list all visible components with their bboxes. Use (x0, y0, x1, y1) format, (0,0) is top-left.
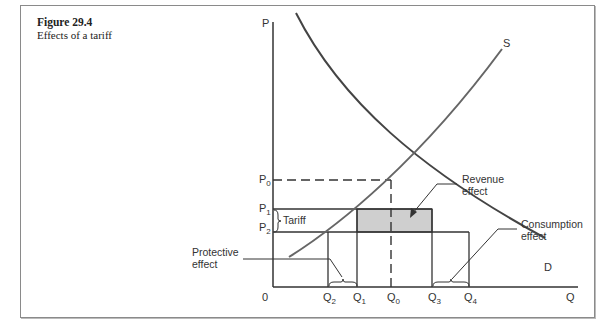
p0-label: P0 (259, 173, 271, 188)
tariff-brace (274, 210, 281, 232)
consumption-label-2: effect (521, 230, 547, 242)
q1-label: Q1 (353, 291, 367, 306)
origin-label: 0 (262, 291, 268, 303)
revenue-area (357, 209, 432, 232)
p1-label: P1 (259, 202, 271, 217)
q2-label: Q2 (323, 291, 337, 306)
consumption-leader (452, 229, 517, 279)
tariff-diagram: P Q 0 S D P0 P1 P2 Q2 Q1 Q0 Q3 Q4 Tariff… (0, 0, 610, 336)
protective-label-2: effect (192, 258, 218, 270)
x-axis-label: Q (566, 291, 575, 303)
q0-label: Q0 (387, 291, 401, 306)
consumption-label-1: Consumption (521, 218, 583, 230)
protective-label-1: Protective (192, 246, 239, 258)
supply-label: S (503, 37, 510, 49)
y-axis-label: P (262, 17, 269, 29)
protective-brace (329, 279, 357, 286)
tariff-label: Tariff (283, 214, 306, 226)
protective-leader (243, 259, 342, 277)
consumption-brace (433, 279, 469, 286)
revenue-label-1: Revenue (462, 173, 504, 185)
p2-label: P2 (259, 221, 271, 236)
q4-label: Q4 (464, 291, 478, 306)
q3-label: Q3 (428, 291, 442, 306)
revenue-label-2: effect (462, 185, 488, 197)
demand-label: D (544, 261, 552, 273)
